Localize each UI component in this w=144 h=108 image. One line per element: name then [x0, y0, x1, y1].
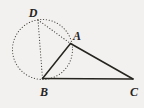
vertex-label-a: A — [73, 30, 81, 42]
figure-canvas — [0, 0, 144, 108]
geometry-figure: D A B C — [0, 0, 144, 108]
segment-ab-solid — [43, 44, 71, 79]
circle-through-d-a-b — [13, 20, 73, 80]
vertex-label-b: B — [40, 86, 48, 98]
segment-bc-solid — [43, 79, 134, 80]
segment-da-dotted — [38, 20, 71, 44]
vertex-label-d: D — [29, 7, 38, 19]
segment-ac-solid — [71, 44, 134, 80]
vertex-label-c: C — [130, 86, 138, 98]
segment-db-dotted — [38, 20, 43, 79]
